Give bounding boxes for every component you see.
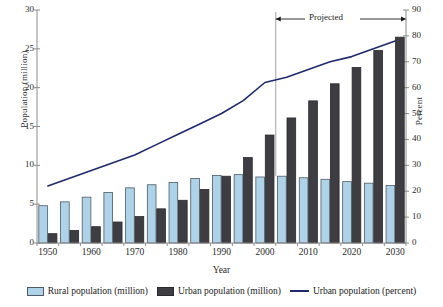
y-axis-right-tick-label: 60 <box>412 82 436 92</box>
urban-bar <box>113 222 122 243</box>
urban-bar <box>200 189 209 243</box>
y-axis-left-tick-label: 20 <box>8 82 34 92</box>
y-axis-right-tick-label: 0 <box>412 237 436 247</box>
y-axis-right-tick-label: 20 <box>412 185 436 195</box>
rural-bar <box>278 176 287 243</box>
urban-bar <box>309 101 318 243</box>
urban-bar <box>157 209 166 243</box>
legend-label-rural: Rural population (million) <box>48 286 148 296</box>
rural-bar <box>234 175 243 243</box>
urban-bar <box>265 135 274 243</box>
urban-percent-line <box>48 41 395 186</box>
x-axis-tick-label: 1960 <box>69 247 113 257</box>
y-axis-left-tick-label: 0 <box>8 237 34 247</box>
x-axis-tick-label: 2000 <box>243 247 287 257</box>
urban-bar <box>70 231 79 243</box>
x-axis-tick-label: 1950 <box>26 247 70 257</box>
urban-bar <box>178 200 187 243</box>
urban-bar <box>135 217 144 243</box>
x-axis-tick-label: 1970 <box>113 247 157 257</box>
line-swatch-icon <box>290 290 309 292</box>
rural-bar <box>364 183 373 243</box>
rural-bar <box>82 197 91 243</box>
y-axis-left-tick-label: 10 <box>8 159 34 169</box>
urban-bar <box>92 227 101 243</box>
rural-bar <box>191 179 200 243</box>
x-axis-tick-label: 1990 <box>200 247 244 257</box>
urban-bar <box>352 67 361 243</box>
rural-bar <box>299 178 308 243</box>
x-axis-tick-label: 2010 <box>286 247 330 257</box>
chart-legend: Rural population (million) Urban populat… <box>0 286 443 296</box>
x-axis-tick-label: 2030 <box>373 247 417 257</box>
urban-bar <box>222 176 231 243</box>
urban-bar <box>287 118 296 243</box>
urban-bar <box>330 84 339 243</box>
rural-bar <box>256 177 265 243</box>
rural-bar <box>39 206 48 243</box>
rural-bar <box>60 202 69 243</box>
urban-bar <box>396 37 405 243</box>
y-axis-right-tick-label: 80 <box>412 30 436 40</box>
y-axis-left-tick-label: 15 <box>8 121 34 131</box>
urban-bar <box>374 50 383 243</box>
y-axis-right-tick-label: 30 <box>412 159 436 169</box>
chart-container: Population (million) Percent Year Projec… <box>0 0 443 307</box>
urban-swatch-icon <box>157 287 174 296</box>
legend-item-rural: Rural population (million) <box>27 286 148 296</box>
rural-bar <box>126 188 135 243</box>
legend-item-urban: Urban population (million) <box>157 286 281 296</box>
y-axis-right-tick-label: 50 <box>412 108 436 118</box>
rural-bar <box>212 175 221 243</box>
y-axis-left-tick-label: 5 <box>8 198 34 208</box>
rural-bar <box>169 182 178 243</box>
rural-bar <box>147 185 156 243</box>
rural-bar <box>386 186 395 243</box>
chart-plot-area <box>0 0 443 307</box>
rural-bar <box>343 182 352 243</box>
y-axis-right-tick-label: 90 <box>412 4 436 14</box>
y-axis-right-tick-label: 70 <box>412 56 436 66</box>
y-axis-left-tick-label: 25 <box>8 43 34 53</box>
urban-bar <box>48 234 57 243</box>
legend-label-percent: Urban population (percent) <box>313 286 416 296</box>
urban-bar <box>244 158 253 243</box>
legend-item-percent: Urban population (percent) <box>290 286 416 296</box>
y-axis-left-tick-label: 30 <box>8 4 34 14</box>
legend-label-urban: Urban population (million) <box>178 286 281 296</box>
x-axis-tick-label: 1980 <box>156 247 200 257</box>
rural-bar <box>104 193 113 243</box>
x-axis-tick-label: 2020 <box>330 247 374 257</box>
rural-swatch-icon <box>27 287 44 296</box>
y-axis-right-tick-label: 40 <box>412 133 436 143</box>
rural-bar <box>321 179 330 243</box>
y-axis-right-tick-label: 10 <box>412 211 436 221</box>
